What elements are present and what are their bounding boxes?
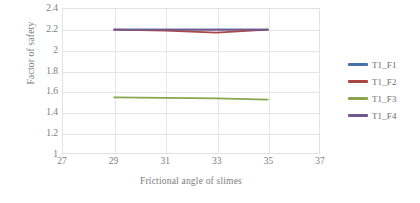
legend-item-label: T1_F2 <box>372 77 397 87</box>
y-tick-label: 2.2 <box>24 25 58 35</box>
y-tick-label: 1.2 <box>24 129 58 139</box>
series-line-t1_f3 <box>114 97 268 99</box>
line-chart: Factor of safety 11.21.41.61.822.22.4 27… <box>0 0 420 203</box>
legend-item-t1_f3[interactable]: T1_F3 <box>348 90 418 107</box>
legend-item-t1_f2[interactable]: T1_F2 <box>348 73 418 90</box>
legend-item-label: T1_F1 <box>372 60 397 70</box>
x-tick-label: 33 <box>212 157 222 167</box>
y-tick-label: 1 <box>24 150 58 160</box>
x-tick-label: 37 <box>315 157 325 167</box>
y-axis-tick-labels: 11.21.41.61.822.22.4 <box>24 8 58 154</box>
x-axis-title: Frictional angle of slimes <box>62 176 320 186</box>
legend-item-t1_f4[interactable]: T1_F4 <box>348 107 418 124</box>
legend-swatch-icon <box>348 63 368 66</box>
y-tick-label: 1.6 <box>24 88 58 98</box>
y-tick-label: 1.4 <box>24 109 58 119</box>
y-tick-label: 2.4 <box>24 4 58 14</box>
legend-item-label: T1_F4 <box>372 111 397 121</box>
x-tick-label: 29 <box>109 157 119 167</box>
legend-item-t1_f1[interactable]: T1_F1 <box>348 56 418 73</box>
y-tick-label: 2 <box>24 46 58 56</box>
x-tick-label: 35 <box>264 157 274 167</box>
legend-item-label: T1_F3 <box>372 94 397 104</box>
y-tick-label: 1.8 <box>24 67 58 77</box>
plot-area <box>62 8 320 154</box>
legend-swatch-icon <box>348 114 368 117</box>
legend-swatch-icon <box>348 80 368 83</box>
x-tick-label: 31 <box>160 157 170 167</box>
x-tick-label: 27 <box>57 157 67 167</box>
legend-swatch-icon <box>348 97 368 100</box>
chart-legend: T1_F1T1_F2T1_F3T1_F4 <box>348 56 418 124</box>
series-lines <box>63 9 319 153</box>
x-axis-tick-labels: 272931333537 <box>62 157 320 171</box>
